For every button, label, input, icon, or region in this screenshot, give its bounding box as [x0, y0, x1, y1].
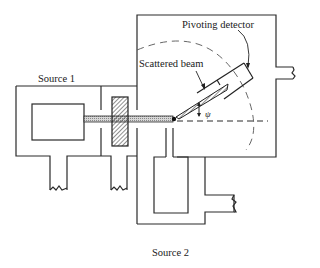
main-chamber-outline [137, 15, 293, 157]
source1-port-break [50, 186, 67, 190]
source1-label: Source 1 [38, 73, 75, 84]
pivoting-detector [197, 63, 253, 99]
collimator-block [112, 97, 128, 146]
scattered-beam-label: Scattered beam [139, 58, 203, 69]
detector-leader-line [238, 30, 249, 67]
chamber-port-break [292, 67, 295, 79]
source2-emitter-box [154, 157, 188, 213]
middle-port-break [111, 186, 127, 190]
angle-arrow-head-down [197, 113, 201, 117]
target-point [172, 117, 176, 121]
pivoting-detector-label: Pivoting detector [182, 19, 255, 30]
source2-housing [137, 157, 234, 224]
angle-psi-label: ψ [205, 109, 211, 119]
diagram-svg: ψ Source 1 Source 2 Scattered beam Pivot… [0, 0, 320, 268]
scattering-apparatus-diagram: ψ Source 1 Source 2 Scattered beam Pivot… [0, 0, 320, 268]
source2-label: Source 2 [152, 247, 189, 258]
source1-emitter-box [32, 104, 84, 140]
